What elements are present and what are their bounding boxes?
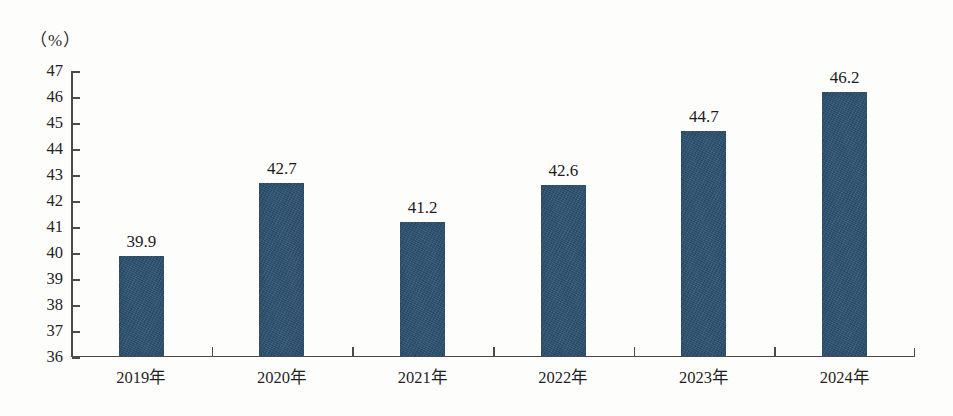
bar-value-label: 42.7 [267,160,297,177]
x-axis-category-label: 2019年 [116,370,166,387]
x-axis-category-label: 2022年 [538,370,588,387]
y-axis-tick: 36 [72,357,80,359]
bar: 42.72020年 [259,183,304,356]
y-axis-tick: 43 [72,175,80,177]
y-axis-tick: 45 [72,123,80,125]
bar-value-label: 42.6 [548,162,578,179]
y-axis-tick: 39 [72,279,80,281]
bar-chart: （%） 474645444342414039383736 39.92019年42… [0,0,953,416]
x-axis-tick [352,347,354,356]
y-axis-tick-label: 39 [47,271,64,288]
y-axis-tick-label: 46 [47,89,64,106]
y-axis-tick: 41 [72,227,80,229]
bar: 41.22021年 [400,222,445,356]
bar: 46.22024年 [822,92,867,356]
x-axis-category-label: 2021年 [398,370,448,387]
y-axis-tick-label: 43 [47,167,64,184]
y-axis-tick-label: 44 [47,141,64,158]
bar-value-label: 41.2 [408,199,438,216]
y-axis-tick-label: 37 [47,323,64,340]
y-axis-tick: 37 [72,331,80,333]
bar: 42.62022年 [541,185,586,355]
x-axis-category-label: 2020年 [257,370,307,387]
y-axis-tick-label: 40 [47,245,64,262]
y-axis-tick-label: 41 [47,219,64,236]
y-axis-tick: 47 [72,71,80,73]
bar: 44.72023年 [681,131,726,356]
bar-value-label: 39.9 [126,233,156,250]
x-axis-end-tick [914,348,916,357]
bar-value-label: 44.7 [689,108,719,125]
y-axis-tick: 38 [72,305,80,307]
y-axis-unit-label: （%） [30,26,81,51]
y-axis-tick: 42 [72,201,80,203]
y-axis-tick: 46 [72,97,80,99]
plot-area: 474645444342414039383736 39.92019年42.720… [71,71,915,357]
x-axis-tick [634,347,636,356]
y-axis-tick: 44 [72,149,80,151]
bar: 39.92019年 [119,256,164,356]
bar-value-label: 46.2 [830,69,860,86]
y-axis-tick: 40 [72,253,80,255]
x-axis-tick [493,347,495,356]
x-axis-tick [212,347,214,356]
y-axis-tick-label: 47 [47,63,64,80]
x-axis-category-label: 2024年 [820,370,870,387]
y-axis-tick-label: 45 [47,115,64,132]
y-axis-tick-label: 38 [47,297,64,314]
y-axis-tick-label: 42 [47,193,64,210]
x-axis-tick [774,347,776,356]
x-axis-category-label: 2023年 [679,370,729,387]
y-axis-tick-label: 36 [47,349,64,366]
y-axis-line [71,71,73,357]
